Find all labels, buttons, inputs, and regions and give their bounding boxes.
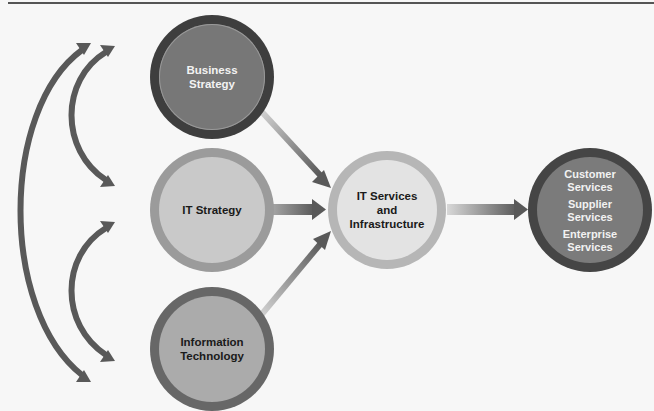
label-infrastructure: Infrastructure xyxy=(350,217,425,231)
node-it-strategy: IT Strategy xyxy=(150,148,274,272)
label-business: Business xyxy=(186,63,237,77)
label-information: Information xyxy=(180,335,243,349)
label-strategy: Strategy xyxy=(189,77,235,91)
node-information-technology: Information Technology xyxy=(150,287,274,411)
label-it-services: IT Services xyxy=(357,189,418,203)
arc-it-strategy-information-technology xyxy=(72,221,116,362)
arrow-information-technology-to-it-services xyxy=(262,231,331,314)
arrow-business-to-it-services xyxy=(262,112,331,188)
label-and: and xyxy=(377,203,397,217)
group-supplier-services: Supplier Services xyxy=(567,197,612,224)
node-it-services-infrastructure: IT Services and Infrastructure xyxy=(328,151,446,269)
label-supplier-services: Services xyxy=(567,211,612,223)
label-supplier: Supplier xyxy=(567,198,612,210)
arc-business-it-strategy xyxy=(72,45,116,187)
label-enterprise: Enterprise xyxy=(563,228,617,240)
arrow-it-services-to-services xyxy=(447,199,528,220)
node-business-strategy: Business Strategy xyxy=(150,15,274,139)
label-customer: Customer xyxy=(564,168,615,180)
node-services: Customer Services Supplier Services Ente… xyxy=(528,148,652,272)
label-it-strategy: IT Strategy xyxy=(182,203,241,217)
label-customer-services: Services xyxy=(564,181,615,193)
label-technology: Technology xyxy=(180,349,244,363)
group-customer-services: Customer Services xyxy=(564,167,615,194)
label-enterprise-services: Services xyxy=(563,241,617,253)
group-enterprise-services: Enterprise Services xyxy=(563,227,617,254)
